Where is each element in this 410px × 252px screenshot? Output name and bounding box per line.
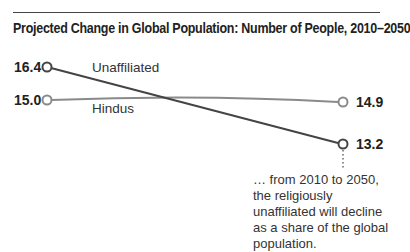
- unaffiliated-label: Unaffiliated: [92, 60, 159, 75]
- hindus-2050-marker: [339, 98, 348, 107]
- unaffiliated-2050-marker: [339, 140, 348, 149]
- hindus-2050-value: 14.9: [356, 94, 383, 110]
- annotation-text: … from 2010 to 2050, the religiously una…: [253, 172, 393, 252]
- hindus-2010-marker: [43, 96, 52, 105]
- hindus-2010-value: 15.0: [14, 92, 41, 108]
- unaffiliated-2010-value: 16.4: [14, 59, 41, 75]
- unaffiliated-2050-value: 13.2: [356, 136, 383, 152]
- hindus-label: Hindus: [92, 101, 134, 116]
- unaffiliated-2010-marker: [43, 63, 52, 72]
